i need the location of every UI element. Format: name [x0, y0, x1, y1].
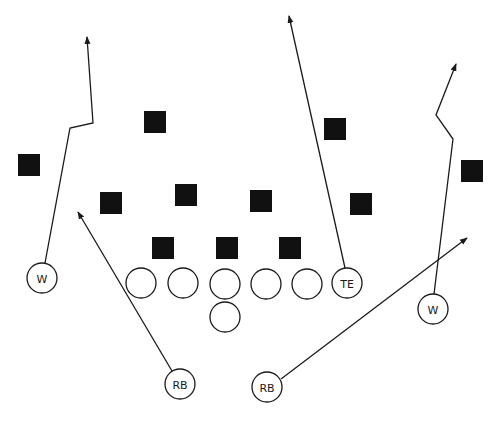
defender-square-icon [216, 237, 238, 259]
player-w-right: W [418, 294, 448, 324]
player-w-left: W [27, 263, 57, 293]
player-label: W [428, 304, 439, 317]
defense [18, 111, 483, 259]
defender-square-icon [324, 118, 346, 140]
defender-square-icon [144, 111, 166, 133]
defender-square-icon [461, 160, 483, 182]
defender-square-icon [152, 237, 174, 259]
defender-square-icon [100, 192, 122, 214]
defender-square-icon [350, 193, 372, 215]
player-ol-2 [168, 268, 198, 298]
player-ol-5 [292, 269, 322, 299]
offense-circle-icon [251, 269, 281, 299]
player-label: W [37, 273, 48, 286]
player-te: TE [332, 268, 362, 298]
football-play-diagram: WTEWRBRB [0, 0, 498, 421]
player-ol-center [210, 269, 240, 299]
player-ol-4 [251, 269, 281, 299]
offense-circle-icon [168, 268, 198, 298]
route-rb-left-arrow [78, 212, 172, 371]
defender-square-icon [250, 190, 272, 212]
offense-circle-icon [210, 269, 240, 299]
player-rb-right: RB [252, 372, 282, 402]
player-label: RB [172, 379, 187, 392]
player-qb [210, 302, 240, 332]
route-w-right-arrow [434, 64, 456, 294]
route-w-left-arrow [45, 37, 93, 263]
player-rb-left: RB [165, 369, 195, 399]
route-te-arrow [289, 16, 345, 268]
offense: WTEWRBRB [27, 263, 448, 402]
defender-square-icon [175, 184, 197, 206]
player-label: RB [259, 382, 274, 395]
defender-square-icon [279, 237, 301, 259]
offense-circle-icon [126, 268, 156, 298]
player-label: TE [339, 278, 354, 291]
defender-square-icon [18, 154, 40, 176]
offense-circle-icon [292, 269, 322, 299]
offense-circle-icon [210, 302, 240, 332]
play-field: WTEWRBRB [0, 0, 498, 421]
player-ol-1 [126, 268, 156, 298]
